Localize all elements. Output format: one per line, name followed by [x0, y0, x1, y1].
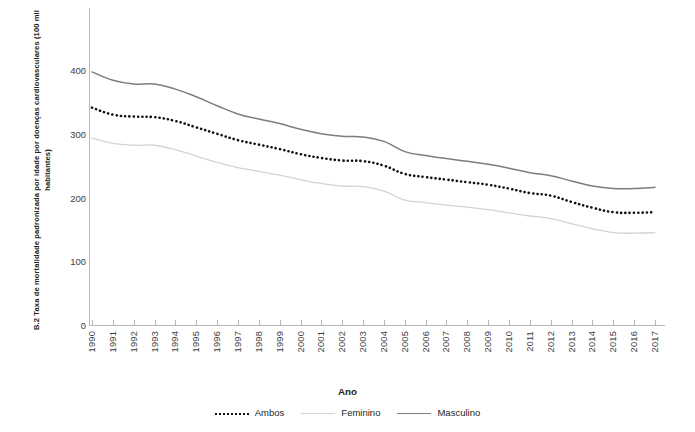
y-axis-ticks: 0100200300400: [40, 0, 86, 432]
x-tick-label: 2005: [400, 331, 410, 352]
x-tick-mark: [613, 320, 614, 325]
x-tick-label: 2001: [316, 331, 326, 352]
x-tick-label: 1993: [150, 331, 160, 352]
x-tick-mark: [488, 320, 489, 325]
x-tick-label: 2009: [483, 331, 493, 352]
x-tick-label: 2000: [296, 331, 306, 352]
x-tick-mark: [363, 320, 364, 325]
x-tick-mark: [467, 320, 468, 325]
x-tick-mark: [321, 320, 322, 325]
x-tick-label: 2011: [525, 331, 535, 352]
x-tick-mark: [426, 320, 427, 325]
x-tick-label: 2017: [650, 331, 660, 352]
x-tick-label: 1998: [254, 331, 264, 352]
x-tick-label: 1991: [108, 331, 118, 352]
x-tick-mark: [301, 320, 302, 325]
x-tick-mark: [592, 320, 593, 325]
x-tick-mark: [259, 320, 260, 325]
x-tick-label: 1996: [212, 331, 222, 352]
x-tick-mark: [342, 320, 343, 325]
legend-swatch-feminino: [301, 408, 335, 418]
x-tick-mark: [92, 320, 93, 325]
y-tick-mark: [83, 325, 86, 326]
x-tick-label: 1990: [87, 331, 97, 352]
y-tick-mark: [83, 134, 86, 135]
x-tick-label: 1992: [129, 331, 139, 352]
series-line-feminino: [92, 138, 655, 233]
y-tick-label: 100: [46, 256, 86, 267]
x-tick-mark: [238, 320, 239, 325]
x-tick-mark: [530, 320, 531, 325]
x-tick-label: 2010: [504, 331, 514, 352]
x-tick-label: 2002: [337, 331, 347, 352]
x-tick-label: 2014: [587, 331, 597, 352]
x-tick-label: 1999: [275, 331, 285, 352]
x-tick-mark: [655, 320, 656, 325]
x-tick-label: 2012: [546, 331, 556, 352]
chart-figure: B.2 Taxa de mortalidade padronizada por …: [0, 0, 695, 432]
legend-label-masculino: Masculino: [437, 407, 480, 418]
y-tick-label: 300: [46, 128, 86, 139]
legend-label-feminino: Feminino: [341, 407, 380, 418]
y-tick-mark: [83, 198, 86, 199]
x-tick-label: 2008: [462, 331, 472, 352]
y-tick-label: 0: [46, 320, 86, 331]
legend-label-ambos: Ambos: [255, 407, 285, 418]
x-tick-mark: [155, 320, 156, 325]
y-tick-label: 200: [46, 192, 86, 203]
x-tick-mark: [134, 320, 135, 325]
x-tick-mark: [551, 320, 552, 325]
y-tick-label: 400: [46, 65, 86, 76]
x-tick-mark: [634, 320, 635, 325]
x-tick-mark: [384, 320, 385, 325]
x-axis-line: [89, 325, 665, 326]
x-tick-label: 1995: [191, 331, 201, 352]
x-tick-label: 1994: [170, 331, 180, 352]
plot-area: [90, 8, 665, 325]
legend-item-ambos[interactable]: Ambos: [215, 407, 285, 418]
x-tick-mark: [446, 320, 447, 325]
series-lines: [90, 8, 665, 325]
series-line-ambos: [92, 108, 655, 213]
x-tick-mark: [572, 320, 573, 325]
legend-swatch-masculino: [397, 408, 431, 418]
x-tick-label: 1997: [233, 331, 243, 352]
x-tick-mark: [217, 320, 218, 325]
x-tick-label: 2003: [358, 331, 368, 352]
legend-item-masculino[interactable]: Masculino: [397, 407, 480, 418]
x-tick-mark: [113, 320, 114, 325]
y-tick-mark: [83, 70, 86, 71]
x-tick-label: 2007: [441, 331, 451, 352]
x-tick-mark: [280, 320, 281, 325]
x-axis-title: Ano: [0, 386, 695, 397]
y-tick-mark: [83, 261, 86, 262]
x-tick-label: 2004: [379, 331, 389, 352]
x-tick-label: 2015: [608, 331, 618, 352]
chart-legend: Ambos Feminino Masculino: [0, 407, 695, 418]
x-tick-label: 2016: [629, 331, 639, 352]
legend-item-feminino[interactable]: Feminino: [301, 407, 380, 418]
x-tick-label: 2013: [567, 331, 577, 352]
legend-swatch-ambos: [215, 408, 249, 418]
series-line-masculino: [92, 72, 655, 189]
x-tick-mark: [175, 320, 176, 325]
x-tick-label: 2006: [421, 331, 431, 352]
x-tick-mark: [196, 320, 197, 325]
x-tick-mark: [509, 320, 510, 325]
x-tick-mark: [405, 320, 406, 325]
